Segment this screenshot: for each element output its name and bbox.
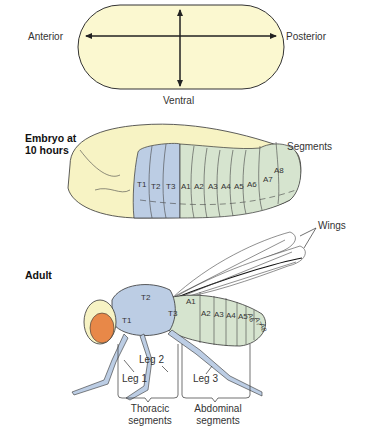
embryo-seg-a3: A3 bbox=[208, 182, 218, 191]
diagram-graphics bbox=[0, 0, 366, 443]
adult-seg-a3: A3 bbox=[214, 310, 224, 319]
embryo-seg-t3: T3 bbox=[166, 182, 175, 191]
leg2-label: Leg 2 bbox=[139, 354, 164, 365]
embryo-seg-a8: A8 bbox=[274, 166, 284, 175]
wings-drawing bbox=[170, 232, 305, 300]
posterior-label: Posterior bbox=[286, 31, 326, 42]
adult-seg-a1: A1 bbox=[186, 297, 196, 306]
segments-label: Segments bbox=[287, 141, 332, 152]
ventral-label: Ventral bbox=[163, 95, 194, 106]
adult-seg-t2: T2 bbox=[141, 293, 150, 302]
embryo-seg-a2: A2 bbox=[194, 182, 204, 191]
wings-label: Wings bbox=[318, 220, 346, 231]
embryo-title-line2: 10 hours bbox=[25, 145, 69, 156]
embryo-seg-a7: A7 bbox=[263, 175, 273, 184]
embryo-title-line1: Embryo at bbox=[25, 133, 76, 144]
embryo-seg-a1: A1 bbox=[181, 182, 191, 191]
abdominal-group-label-line2: segments bbox=[186, 415, 250, 426]
adult-seg-a4: A4 bbox=[226, 311, 236, 320]
adult-title: Adult bbox=[25, 270, 52, 281]
leg3-label: Leg 3 bbox=[193, 373, 218, 384]
abdominal-group-label-line1: Abdominal bbox=[186, 403, 250, 414]
axis-egg bbox=[78, 5, 284, 89]
anterior-label: Anterior bbox=[28, 31, 63, 42]
embryo-seg-a5: A5 bbox=[234, 182, 244, 191]
adult-seg-t1: T1 bbox=[122, 316, 131, 325]
embryo-seg-a4: A4 bbox=[221, 182, 231, 191]
leg1-label: Leg 1 bbox=[122, 373, 147, 384]
thoracic-group-label-line1: Thoracic bbox=[118, 403, 182, 414]
embryo-drawing bbox=[68, 124, 301, 218]
adult-seg-t3: T3 bbox=[168, 309, 177, 318]
adult-seg-a2: A2 bbox=[201, 309, 211, 318]
embryo-seg-t1: T1 bbox=[137, 180, 146, 189]
embryo-seg-a6: A6 bbox=[247, 180, 257, 189]
thoracic-group-label-line2: segments bbox=[118, 415, 182, 426]
embryo-seg-t2: T2 bbox=[151, 182, 160, 191]
